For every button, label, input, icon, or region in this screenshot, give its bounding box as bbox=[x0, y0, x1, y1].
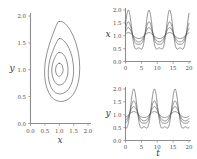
phase-y-axis-label: y bbox=[8, 63, 15, 73]
x-tick-label: 15 bbox=[170, 65, 177, 71]
orbit-curve bbox=[45, 21, 80, 101]
predator-x-axis-label: t bbox=[156, 148, 160, 158]
phase-y-tick-label: 1.5 bbox=[17, 40, 26, 46]
phase-x-tick-label: 1.0 bbox=[55, 128, 64, 134]
x-tick-label: 5 bbox=[140, 65, 144, 71]
x-tick-label: 0 bbox=[124, 65, 128, 71]
phase-y-tick-label: 0.5 bbox=[17, 94, 26, 100]
phase-y-tick-label: 1.0 bbox=[17, 67, 26, 73]
y-tick-label: 1.0 bbox=[113, 112, 122, 118]
figure-container: 0.00.51.01.52.0 0.00.51.01.52.0 x y 0510… bbox=[0, 0, 197, 159]
predator-time-series-panel: 05101520 0.00.51.01.52.0 y t bbox=[98, 79, 197, 159]
y-tick-label: 1.5 bbox=[113, 20, 122, 26]
x-tick-label: 20 bbox=[186, 65, 193, 71]
x-tick-label: 10 bbox=[154, 65, 161, 71]
prey-time-series-panel: 05101520 0.00.51.01.52.0 x bbox=[98, 0, 197, 79]
prey-y-tick-labels: 0.00.51.01.52.0 bbox=[113, 7, 122, 65]
phase-portrait-panel: 0.00.51.01.52.0 0.00.51.01.52.0 x y bbox=[0, 0, 98, 159]
x-tick-label: 20 bbox=[186, 144, 193, 150]
phase-x-axis-label: x bbox=[57, 135, 62, 145]
y-tick-label: 2.0 bbox=[113, 7, 122, 13]
predator-y-tick-labels: 0.00.51.01.52.0 bbox=[113, 86, 122, 144]
time-series-curve bbox=[126, 33, 190, 39]
y-tick-label: 1.5 bbox=[113, 99, 122, 105]
phase-y-tick-label: 2.0 bbox=[17, 13, 26, 19]
phase-y-tick-label: 0.0 bbox=[17, 121, 26, 127]
y-tick-label: 1.0 bbox=[113, 33, 122, 39]
predator-y-axis-label: y bbox=[104, 108, 111, 118]
prey-x-tick-labels: 05101520 bbox=[124, 65, 193, 71]
phase-x-tick-labels: 0.00.51.01.52.0 bbox=[26, 128, 93, 134]
phase-orbits bbox=[45, 21, 80, 101]
time-series-curve bbox=[126, 28, 190, 42]
phase-x-tick-label: 1.5 bbox=[69, 128, 78, 134]
x-tick-label: 15 bbox=[170, 144, 177, 150]
y-tick-label: 0.0 bbox=[113, 138, 122, 144]
y-tick-label: 0.0 bbox=[113, 59, 122, 65]
phase-x-tick-label: 0.0 bbox=[26, 128, 35, 134]
phase-y-tick-labels: 0.00.51.01.52.0 bbox=[17, 13, 26, 127]
y-tick-label: 0.5 bbox=[113, 46, 122, 52]
phase-axes bbox=[28, 13, 91, 126]
orbit-curve bbox=[56, 63, 64, 76]
orbit-curve bbox=[52, 53, 68, 86]
x-tick-label: 5 bbox=[140, 144, 144, 150]
predator-curves bbox=[126, 89, 190, 128]
y-tick-label: 2.0 bbox=[113, 86, 122, 92]
x-tick-label: 0 bbox=[124, 144, 128, 150]
predator-axes bbox=[123, 87, 191, 143]
phase-x-tick-label: 2.0 bbox=[84, 128, 93, 134]
prey-curves bbox=[126, 10, 190, 49]
y-tick-label: 0.5 bbox=[113, 125, 122, 131]
phase-x-tick-label: 0.5 bbox=[41, 128, 50, 134]
prey-y-axis-label: x bbox=[105, 29, 110, 39]
time-series-curve bbox=[126, 10, 190, 49]
